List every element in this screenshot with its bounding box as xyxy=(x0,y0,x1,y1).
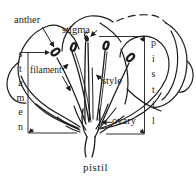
pistil-bracket-label: pistil xyxy=(148,37,158,130)
ovary-label: ovary xyxy=(112,116,136,127)
figure-caption: pistil xyxy=(83,162,108,173)
flower-anatomy-figure: anther stigma filament style ovary stame… xyxy=(0,0,196,185)
stigma-label: stigma xyxy=(62,25,90,36)
filament-label: filament xyxy=(30,66,62,76)
filament-arrow-lower xyxy=(63,77,71,91)
flower-line-drawing xyxy=(0,0,196,185)
stigma-arrow xyxy=(91,31,97,37)
anther-arrow xyxy=(43,28,54,47)
filament-arrow-upper xyxy=(63,65,68,70)
stamen-bracket-label: stamen xyxy=(15,48,25,135)
anther-label: anther xyxy=(14,15,40,26)
stem-shape xyxy=(85,137,87,157)
style-label: style xyxy=(102,76,122,87)
